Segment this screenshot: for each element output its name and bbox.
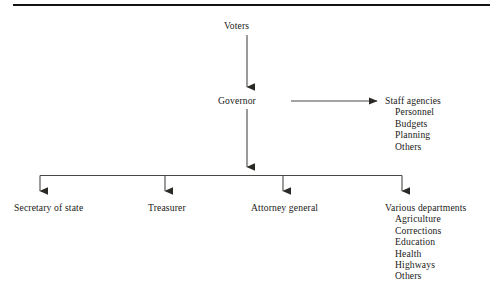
- list-item: Corrections: [395, 225, 466, 236]
- list-item: Others: [395, 141, 441, 152]
- node-various-departments-label: Various departments: [385, 202, 466, 213]
- node-attorney-general: Attorney general: [251, 202, 318, 213]
- node-treasurer: Treasurer: [148, 202, 186, 213]
- list-item: Planning: [395, 129, 441, 140]
- node-various-departments: Various departments Agriculture Correcti…: [385, 202, 466, 282]
- node-secretary-of-state-label: Secretary of state: [14, 202, 83, 213]
- various-departments-list: Agriculture Corrections Education Health…: [385, 213, 466, 281]
- node-attorney-general-label: Attorney general: [251, 202, 318, 213]
- node-staff-agencies: Staff agencies Personnel Budgets Plannin…: [385, 95, 441, 152]
- list-item: Agriculture: [395, 213, 466, 224]
- node-voters: Voters: [224, 20, 249, 31]
- organization-chart: Voters Governor Staff agencies Personnel…: [0, 0, 498, 301]
- list-item: Health: [395, 248, 466, 259]
- node-treasurer-label: Treasurer: [148, 202, 186, 213]
- list-item: Highways: [395, 259, 466, 270]
- list-item: Personnel: [395, 106, 441, 117]
- list-item: Others: [395, 270, 466, 281]
- node-governor-label: Governor: [218, 95, 256, 106]
- list-item: Education: [395, 236, 466, 247]
- node-staff-agencies-label: Staff agencies: [385, 95, 441, 106]
- staff-agencies-list: Personnel Budgets Planning Others: [385, 106, 441, 152]
- list-item: Budgets: [395, 118, 441, 129]
- node-secretary-of-state: Secretary of state: [14, 202, 83, 213]
- node-voters-label: Voters: [224, 20, 249, 31]
- node-governor: Governor: [218, 95, 256, 106]
